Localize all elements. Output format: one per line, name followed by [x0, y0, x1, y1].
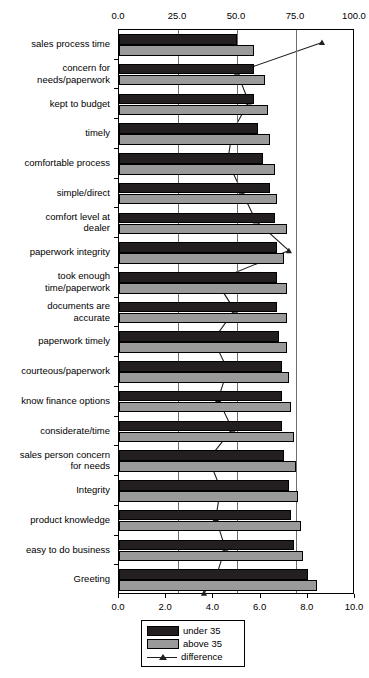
bar-above-35 [119, 283, 287, 294]
category-label: simple/direct [0, 187, 110, 199]
bar-above-35 [119, 342, 287, 353]
chart-figure: 0.025.050.075.0100.0 sales process timec… [0, 0, 369, 678]
bottom-axis-tick-mark [354, 594, 355, 598]
difference-marker [201, 590, 207, 596]
bar-above-35 [119, 491, 298, 502]
category-label: kept to budget [0, 98, 110, 110]
category-label: took enough time/paperwork [0, 270, 110, 293]
bar-under-35 [119, 302, 277, 313]
bar-above-35 [119, 164, 275, 175]
category-label: know finance options [0, 395, 110, 407]
bar-above-35 [119, 372, 289, 383]
bar-above-35 [119, 75, 265, 86]
chart-legend: under 35 above 35 difference [141, 620, 245, 667]
bottom-axis-tick: 8.0 [300, 601, 313, 613]
legend-line-marker-icon [147, 653, 177, 661]
bottom-axis-tick: 10.0 [345, 601, 364, 613]
category-label: paperwork integrity [0, 246, 110, 258]
bar-above-35 [119, 521, 301, 532]
bar-under-35 [119, 94, 254, 105]
bottom-axis-tick: 4.0 [206, 601, 219, 613]
bar-above-35 [119, 402, 291, 413]
bar-above-35 [119, 313, 287, 324]
bar-under-35 [119, 272, 277, 283]
bottom-axis-tick: 0.0 [111, 601, 124, 613]
bar-under-35 [119, 391, 282, 402]
top-axis-tick: 25.0 [168, 10, 187, 22]
category-label: timely [0, 127, 110, 139]
category-label: sales person concern for needs [0, 449, 110, 472]
bar-under-35 [119, 64, 254, 75]
gridline [296, 30, 297, 593]
bottom-axis-labels: 0.02.04.06.08.010.0 [118, 598, 354, 612]
top-axis-tick: 75.0 [286, 10, 305, 22]
bar-under-35 [119, 242, 277, 253]
bar-under-35 [119, 540, 294, 551]
bar-above-35 [119, 224, 287, 235]
bar-above-35 [119, 461, 296, 472]
legend-label-above-35: above 35 [183, 638, 222, 649]
difference-marker [319, 40, 325, 46]
bar-above-35 [119, 551, 303, 562]
bottom-axis-tick-mark [260, 594, 261, 598]
bar-under-35 [119, 569, 308, 580]
top-axis-tick: 100.0 [342, 10, 366, 22]
bottom-axis-tick: 2.0 [159, 601, 172, 613]
bottom-axis-tick: 6.0 [253, 601, 266, 613]
category-label: product knowledge [0, 514, 110, 526]
category-axis-labels: sales process timeconcern for needs/pape… [0, 29, 114, 594]
bar-under-35 [119, 480, 289, 491]
bar-under-35 [119, 450, 284, 461]
category-label: Integrity [0, 484, 110, 496]
category-label: Greeting [0, 573, 110, 585]
legend-item-above-35: above 35 [147, 637, 239, 650]
legend-item-difference: difference [147, 650, 239, 663]
category-label: comfortable process [0, 157, 110, 169]
legend-label-difference: difference [181, 651, 223, 662]
top-axis-tick: 50.0 [227, 10, 246, 22]
bar-above-35 [119, 134, 270, 145]
bar-under-35 [119, 123, 258, 134]
category-label: concern for needs/paperwork [0, 62, 110, 85]
bar-above-35 [119, 45, 254, 56]
bar-under-35 [119, 421, 282, 432]
category-label: courteous/paperwork [0, 365, 110, 377]
bottom-axis-tick-mark [118, 594, 119, 598]
category-label: paperwork timely [0, 335, 110, 347]
category-label: documents are accurate [0, 300, 110, 323]
bar-under-35 [119, 213, 275, 224]
bar-under-35 [119, 183, 270, 194]
bottom-axis-tick-mark [307, 594, 308, 598]
plot-area [118, 29, 354, 594]
bar-under-35 [119, 153, 263, 164]
legend-dark-swatch-icon [147, 626, 179, 636]
bar-above-35 [119, 580, 317, 591]
category-label: sales process time [0, 38, 110, 50]
bar-above-35 [119, 253, 284, 264]
legend-label-under-35: under 35 [183, 625, 221, 636]
category-label: easy to do business [0, 544, 110, 556]
bar-under-35 [119, 34, 237, 45]
bar-under-35 [119, 510, 291, 521]
legend-item-under-35: under 35 [147, 624, 239, 637]
bottom-axis-tick-mark [212, 594, 213, 598]
category-label: comfort level at dealer [0, 211, 110, 234]
category-label: considerate/time [0, 425, 110, 437]
bar-above-35 [119, 105, 268, 116]
top-axis-labels: 0.025.050.075.0100.0 [118, 10, 354, 24]
bar-under-35 [119, 361, 282, 372]
difference-marker [286, 248, 292, 254]
legend-gray-swatch-icon [147, 639, 179, 649]
bottom-axis-tick-mark [165, 594, 166, 598]
bar-above-35 [119, 194, 277, 205]
top-axis-tick: 0.0 [111, 10, 124, 22]
bar-under-35 [119, 331, 279, 342]
bar-above-35 [119, 432, 294, 443]
